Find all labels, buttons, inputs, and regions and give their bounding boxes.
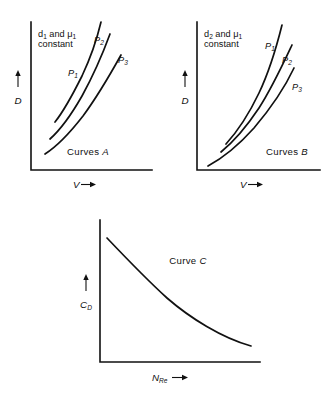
panel-a-curve-label-p3: P3 bbox=[118, 55, 128, 66]
panel-c-x-arrow-icon bbox=[172, 375, 188, 380]
chart-panel-curves-a: D V d1 and μ1 constant P1 P2 P3 Curves A bbox=[0, 0, 164, 200]
panel-a-y-axis-label: D bbox=[14, 95, 21, 106]
panel-b-condition-line2: constant bbox=[204, 39, 239, 49]
panel-a-x-arrow-icon bbox=[81, 182, 96, 187]
panel-b-curve-label-p1: P1 bbox=[265, 41, 275, 52]
panel-a-curve-label-p1: P1 bbox=[68, 68, 78, 79]
panel-b-curve-label-p3: P3 bbox=[292, 82, 302, 93]
panel-c-y-axis-label: CD bbox=[80, 299, 92, 311]
panel-b-curve-label-p2: P2 bbox=[282, 55, 292, 66]
panel-c-caption: Curve C bbox=[169, 255, 206, 266]
chart-panel-curve-c: CD NRe Curve C bbox=[60, 200, 290, 393]
panel-a-condition-line2: constant bbox=[38, 39, 73, 49]
panel-b-x-arrow-icon bbox=[248, 182, 263, 187]
figure-container: D V d1 and μ1 constant P1 P2 P3 Curves A bbox=[0, 0, 328, 393]
panel-b-x-axis-label: V bbox=[240, 179, 248, 190]
panel-b-caption: Curves B bbox=[266, 146, 308, 157]
panel-c-x-axis-label: NRe bbox=[152, 372, 168, 384]
panel-b-y-axis-label: D bbox=[181, 95, 188, 106]
panel-c-y-arrow-icon bbox=[83, 274, 88, 291]
panel-a-curve-p2 bbox=[50, 34, 110, 139]
panel-a-curve-p3 bbox=[45, 55, 121, 154]
panel-a-y-arrow-icon bbox=[15, 70, 20, 87]
panel-a-x-axis-label: V bbox=[73, 179, 81, 190]
panel-b-y-arrow-icon bbox=[182, 70, 187, 87]
panel-a-curve-label-p2: P2 bbox=[94, 35, 104, 46]
chart-panel-curves-b: D V d2 and μ1 constant P1 P2 P3 Curves B bbox=[164, 0, 328, 200]
panel-a-caption: Curves A bbox=[67, 146, 109, 157]
